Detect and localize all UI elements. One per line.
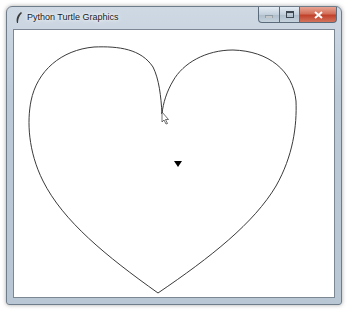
feather-icon bbox=[14, 12, 24, 24]
minimize-button[interactable] bbox=[258, 7, 280, 23]
close-button[interactable] bbox=[300, 7, 337, 23]
turtle-window: Python Turtle Graphics bbox=[6, 6, 342, 305]
heart-outline bbox=[29, 47, 296, 293]
maximize-button[interactable] bbox=[280, 7, 300, 23]
turtle-canvas[interactable] bbox=[13, 29, 335, 298]
close-icon bbox=[314, 11, 323, 19]
window-title: Python Turtle Graphics bbox=[27, 12, 119, 22]
title-bar[interactable]: Python Turtle Graphics bbox=[7, 7, 341, 29]
minimize-icon bbox=[265, 12, 273, 18]
maximize-icon bbox=[286, 11, 294, 18]
mouse-cursor-icon bbox=[162, 112, 169, 124]
caption-buttons bbox=[258, 7, 337, 22]
drawing-canvas bbox=[14, 30, 334, 297]
turtle-arrow-icon bbox=[174, 161, 182, 167]
